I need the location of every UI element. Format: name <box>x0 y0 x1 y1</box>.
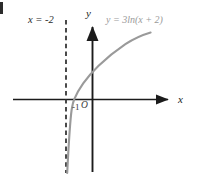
graph-figure: x = -2 y = 3ln(x + 2) y x -1 O <box>0 0 197 176</box>
x-axis-label: x <box>178 94 183 105</box>
asymptote-label: x = -2 <box>28 15 54 26</box>
y-axis-label: y <box>86 8 91 19</box>
log-curve <box>67 33 150 173</box>
origin-label: O <box>81 101 88 111</box>
function-label: y = 3ln(x + 2) <box>106 15 163 25</box>
graph-canvas <box>0 0 197 176</box>
x-intercept-tick-label: -1 <box>72 103 80 112</box>
